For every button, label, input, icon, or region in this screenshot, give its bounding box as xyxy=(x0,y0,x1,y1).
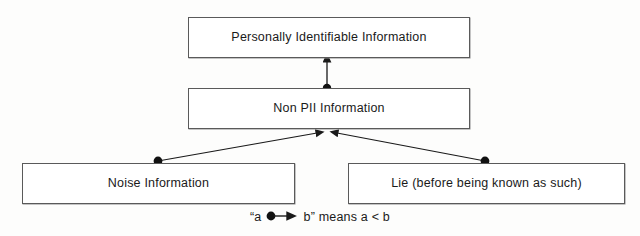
node-lie-before-being-known-as-such[interactable]: Lie (before being known as such) xyxy=(348,163,625,204)
node-non-pii-information[interactable]: Non PII Information xyxy=(188,88,470,129)
edge-lie-to-nonpii xyxy=(337,133,489,165)
node-noise-information[interactable]: Noise Information xyxy=(22,163,295,204)
legend-relation-glyph xyxy=(266,210,300,225)
node-label: Non PII Information xyxy=(273,102,385,115)
legend-caption: “a b” means a < b xyxy=(0,209,640,224)
node-label: Lie (before being known as such) xyxy=(391,177,582,190)
edge-noise-to-nonpii xyxy=(154,133,317,165)
node-label: Noise Information xyxy=(108,177,209,190)
legend-suffix: b” means a < b xyxy=(303,210,390,224)
node-label: Personally Identifiable Information xyxy=(231,31,426,44)
legend-prefix: “a xyxy=(250,210,262,224)
diagram-canvas: Personally Identifiable Information Non … xyxy=(0,0,640,236)
node-personally-identifiable-information[interactable]: Personally Identifiable Information xyxy=(188,17,470,58)
